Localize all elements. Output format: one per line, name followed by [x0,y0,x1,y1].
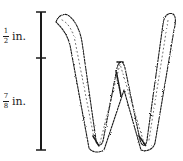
stippled-w-glyph [0,0,183,161]
figure-canvas: 1 2 in. 7 8 in. [0,0,183,161]
glyph-outline [56,13,175,152]
glyph-centerline-stipple [62,20,168,143]
